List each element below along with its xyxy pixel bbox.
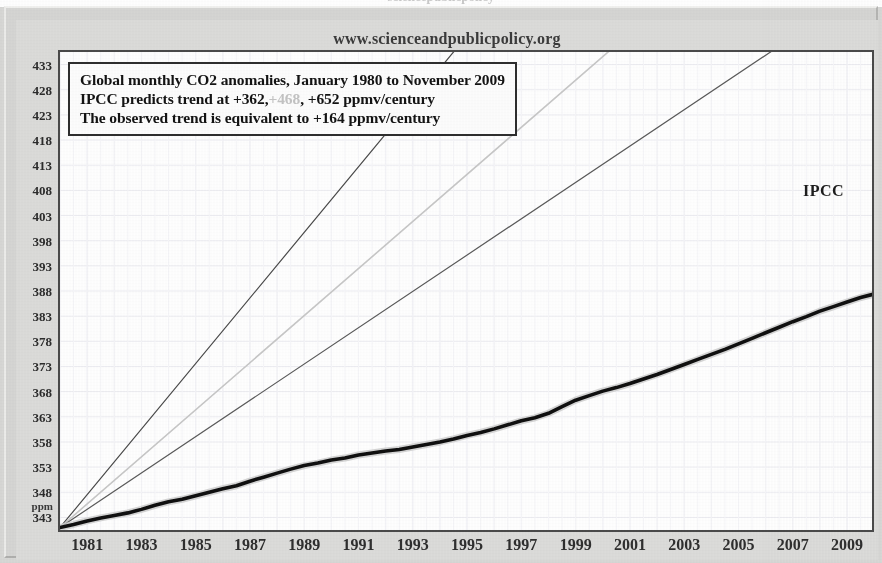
y-axis: 4334284234184134084033983933883833783733… xyxy=(16,50,56,550)
y-axis-tick-label: 413 xyxy=(33,159,53,172)
y-axis-tick-label: 353 xyxy=(33,461,53,474)
y-axis-tick-label: 428 xyxy=(33,84,53,97)
caption-line-2-faded-value: +468 xyxy=(268,90,300,107)
chart-panel: www.scienceandpublicpolicy.org 433428423… xyxy=(16,20,878,560)
y-axis-tick-label: 408 xyxy=(33,184,53,197)
x-axis-tick-label: 1999 xyxy=(560,536,592,554)
x-axis-tick-label: 2005 xyxy=(722,536,754,554)
y-axis-unit-label: ppm xyxy=(32,501,53,512)
y-axis-tick-label: 358 xyxy=(33,436,53,449)
x-axis-tick-label: 1983 xyxy=(125,536,157,554)
y-axis-tick-label: 388 xyxy=(33,285,53,298)
y-axis-tick-label: 368 xyxy=(33,386,53,399)
x-axis-tick-label: 2007 xyxy=(777,536,809,554)
y-axis-tick-label: 373 xyxy=(33,360,53,373)
y-axis-tick-label: 433 xyxy=(33,59,53,72)
ipcc-annotation-label: IPCC xyxy=(803,182,844,200)
y-axis-tick-label: 348 xyxy=(33,486,53,499)
x-axis-tick-label: 2003 xyxy=(668,536,700,554)
x-axis-tick-label: 2009 xyxy=(831,536,863,554)
caption-line-2-prefix: IPCC predicts trend at +362, xyxy=(80,90,268,107)
x-axis-tick-label: 1991 xyxy=(343,536,375,554)
y-axis-tick-label: 363 xyxy=(33,411,53,424)
y-axis-tick-label: 378 xyxy=(33,335,53,348)
series-path xyxy=(60,295,872,528)
y-axis-tick-label: 398 xyxy=(33,235,53,248)
caption-line-3: The observed trend is equivalent to +164… xyxy=(80,108,505,127)
x-axis: 1981198319851987198919911993199519971999… xyxy=(58,536,874,562)
chart-screenshot: sciencepublicpolicy www.scienceandpublic… xyxy=(0,0,882,563)
x-axis-tick-label: 1993 xyxy=(397,536,429,554)
caption-line-1: Global monthly CO2 anomalies, January 19… xyxy=(80,70,505,89)
source-url-label: www.scienceandpublicpolicy.org xyxy=(16,30,878,48)
plot-area: Global monthly CO2 anomalies, January 19… xyxy=(58,50,874,532)
x-axis-tick-label: 1981 xyxy=(71,536,103,554)
y-axis-tick-label: 418 xyxy=(33,134,53,147)
x-axis-tick-label: 1997 xyxy=(505,536,537,554)
caption-line-2-suffix: , +652 ppmv/century xyxy=(300,90,435,107)
caption-box: Global monthly CO2 anomalies, January 19… xyxy=(68,62,517,136)
y-axis-tick-label: 343 xyxy=(33,511,53,524)
y-axis-tick-label: 383 xyxy=(33,310,53,323)
x-axis-tick-label: 1995 xyxy=(451,536,483,554)
y-axis-tick-label: 423 xyxy=(33,109,53,122)
x-axis-tick-label: 2001 xyxy=(614,536,646,554)
x-axis-tick-label: 1985 xyxy=(180,536,212,554)
caption-line-2: IPCC predicts trend at +362,+468, +652 p… xyxy=(80,89,505,108)
x-axis-tick-label: 1989 xyxy=(288,536,320,554)
series-path xyxy=(60,295,872,528)
outer-bevel-frame: www.scienceandpublicpolicy.org 433428423… xyxy=(4,6,878,558)
x-axis-tick-label: 1987 xyxy=(234,536,266,554)
y-axis-tick-label: 403 xyxy=(33,210,53,223)
y-axis-tick-label: 393 xyxy=(33,260,53,273)
